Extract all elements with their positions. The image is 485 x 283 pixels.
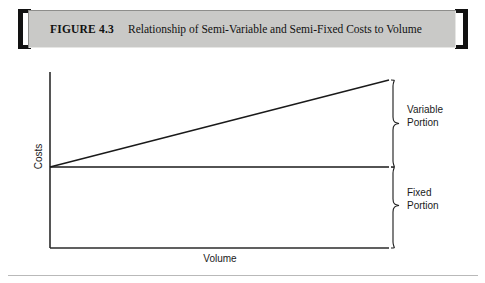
fixed-portion-brace (391, 167, 399, 248)
fixed-portion-annotation: Fixed Portion (407, 186, 439, 212)
figure-title-text: FIGURE 4.3 Relationship of Semi-Variable… (28, 10, 456, 48)
chart-graphics (0, 55, 485, 265)
figure-page: FIGURE 4.3 Relationship of Semi-Variable… (0, 0, 485, 283)
y-axis-title: Costs (33, 117, 44, 197)
cost-volume-chart: Costs Volume Variable Portion Fixed Port… (0, 55, 485, 265)
x-axis-title: Volume (170, 253, 270, 264)
figure-number-label: FIGURE 4.3 (50, 23, 114, 35)
figure-caption-label: Relationship of Semi-Variable and Semi-F… (128, 23, 422, 35)
variable-portion-brace (391, 80, 399, 167)
fixed-portion-line-2: Portion (407, 199, 439, 212)
right-bracket-ornament (455, 9, 468, 49)
total-cost-line (50, 80, 389, 167)
variable-portion-annotation: Variable Portion (407, 103, 443, 129)
variable-portion-line-1: Variable (407, 103, 443, 116)
figure-title-bar: FIGURE 4.3 Relationship of Semi-Variable… (28, 10, 456, 48)
page-bottom-divider (8, 275, 478, 276)
variable-portion-line-2: Portion (407, 116, 443, 129)
fixed-portion-line-1: Fixed (407, 186, 439, 199)
